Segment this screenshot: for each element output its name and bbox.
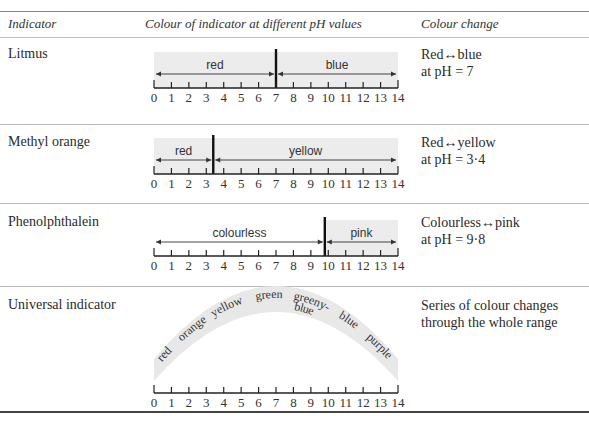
axis-tick-label: 1: [168, 176, 175, 191]
axis-tick-label: 0: [151, 258, 158, 273]
axis-tick-label: 8: [290, 176, 297, 191]
axis-tick-label: 7: [273, 176, 280, 191]
axis-tick-label: 8: [290, 395, 297, 410]
axis-tick-label: 11: [339, 176, 352, 191]
axis-tick-label: 13: [374, 176, 387, 191]
axis-tick-label: 3: [203, 90, 210, 105]
axis-tick-label: 14: [392, 90, 406, 105]
axis-tick-label: 6: [255, 258, 262, 273]
axis-tick-label: 12: [357, 90, 370, 105]
axis-tick-label: 5: [238, 90, 245, 105]
axis-tick-label: 5: [238, 395, 245, 410]
axis-tick-label: 11: [339, 258, 352, 273]
axis-tick-label: 12: [357, 176, 370, 191]
band-label: colourless: [212, 226, 266, 240]
axis-tick-label: 3: [203, 176, 210, 191]
band-label: red: [175, 144, 192, 158]
axis-tick-label: 14: [392, 176, 406, 191]
axis-tick-label: 9: [308, 395, 315, 410]
axis-tick-label: 7: [273, 258, 280, 273]
axis-tick-label: 6: [255, 90, 262, 105]
axis-tick-label: 13: [374, 258, 387, 273]
axis-tick-label: 12: [357, 395, 370, 410]
axis-tick-label: 3: [203, 258, 210, 273]
axis-tick-label: 9: [308, 258, 315, 273]
axis-tick-label: 8: [290, 90, 297, 105]
axis-tick-label: 5: [238, 176, 245, 191]
axis-tick-label: 6: [255, 176, 262, 191]
axis-tick-label: 2: [186, 90, 193, 105]
axis-tick-label: 14: [392, 258, 406, 273]
axis-tick-label: 0: [151, 90, 158, 105]
arrowhead-right-icon: [318, 240, 323, 245]
ph-scale-diagrams: redblue01234567891011121314redyellow0123…: [0, 0, 589, 423]
axis-tick-label: 9: [308, 90, 315, 105]
axis-tick-label: 10: [322, 395, 335, 410]
axis-tick-label: 2: [186, 395, 193, 410]
axis-tick-label: 1: [168, 258, 175, 273]
band-label: blue: [326, 58, 349, 72]
band-label: pink: [350, 226, 373, 240]
axis-tick-label: 9: [308, 176, 315, 191]
axis-tick-label: 11: [339, 395, 352, 410]
axis-tick-label: 1: [168, 395, 175, 410]
axis-tick-label: 3: [203, 395, 210, 410]
arrowhead-left-icon: [156, 240, 161, 245]
axis-tick-label: 8: [290, 258, 297, 273]
axis-tick-label: 12: [357, 258, 370, 273]
band-label: red: [206, 58, 223, 72]
axis-tick-label: 2: [186, 258, 193, 273]
axis-tick-label: 1: [168, 90, 175, 105]
axis-tick-label: 2: [186, 176, 193, 191]
axis-tick-label: 4: [220, 258, 227, 273]
axis-tick-label: 5: [238, 258, 245, 273]
axis-tick-label: 6: [255, 395, 262, 410]
arc-label: green: [254, 287, 283, 303]
axis-tick-label: 4: [220, 176, 227, 191]
axis-tick-label: 13: [374, 90, 387, 105]
axis-tick-label: 0: [151, 395, 158, 410]
axis-tick-label: 13: [374, 395, 387, 410]
axis-tick-label: 14: [392, 395, 406, 410]
axis-tick-label: 10: [322, 258, 335, 273]
axis-tick-label: 4: [220, 395, 227, 410]
axis-tick-label: 4: [220, 90, 227, 105]
axis-tick-label: 10: [322, 90, 335, 105]
axis-tick-label: 11: [339, 90, 352, 105]
band-label: yellow: [289, 144, 323, 158]
axis-tick-label: 0: [151, 176, 158, 191]
axis-tick-label: 7: [273, 90, 280, 105]
axis-tick-label: 7: [273, 395, 280, 410]
axis-tick-label: 10: [322, 176, 335, 191]
